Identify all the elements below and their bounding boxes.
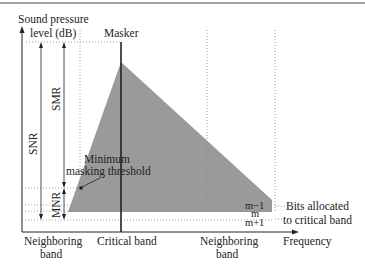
x-axis-label: Frequency: [283, 235, 332, 248]
smr-arrowhead-top-icon: [62, 42, 66, 48]
smr-label: SMR: [50, 86, 62, 111]
snr-arrowhead-top-icon: [39, 42, 43, 48]
threshold-label-line1: Minimum: [84, 153, 130, 165]
masking-area: [68, 62, 272, 212]
mnr-label: MNR: [50, 191, 62, 218]
snr-label: SNR: [27, 132, 39, 155]
band-critical-label: Critical band: [97, 235, 157, 247]
band-right-line1: Neighboring: [200, 235, 258, 248]
masker-label: Masker: [104, 27, 139, 39]
band-left-line1: Neighboring: [24, 235, 82, 248]
bits-label-line1: Bits allocated: [286, 200, 349, 212]
level-label-m-plus-1: m+1: [245, 217, 264, 228]
threshold-point-icon: [79, 186, 83, 190]
band-left-line2: band: [40, 248, 63, 260]
band-right-line2: band: [216, 248, 239, 260]
snr-arrowhead-bottom-icon: [39, 214, 43, 220]
x-axis-arrow-icon: [292, 230, 299, 235]
bits-label-line2: to critical band: [283, 214, 352, 226]
masking-diagram: Sound pressure level (dB) Masker SNR SMR…: [0, 0, 365, 270]
threshold-label-line2: masking threshold: [66, 165, 151, 178]
y-axis-label-line2: level (dB): [30, 27, 76, 40]
y-axis-label-line1: Sound pressure: [18, 13, 89, 26]
mnr-arrowhead-top-icon: [62, 188, 66, 194]
smr-arrowhead-bottom-icon: [62, 182, 66, 188]
y-axis-arrow-icon: [20, 26, 25, 33]
mnr-arrowhead-bottom-icon: [62, 214, 66, 220]
